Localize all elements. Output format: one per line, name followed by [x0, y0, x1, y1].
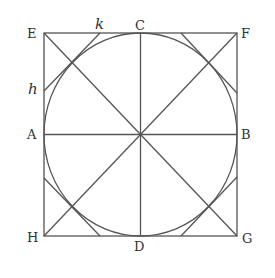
label-B: B	[241, 128, 251, 141]
geometry-diagram: E F H G A B C D h k	[0, 0, 275, 278]
label-H: H	[27, 231, 38, 244]
label-C: C	[135, 19, 145, 32]
label-D: D	[134, 240, 144, 253]
label-h: h	[28, 82, 38, 97]
label-G: G	[242, 232, 252, 245]
label-A: A	[27, 128, 36, 141]
label-F: F	[241, 27, 250, 40]
label-k: k	[95, 17, 104, 32]
diagram-canvas	[0, 0, 275, 278]
label-E: E	[27, 27, 37, 40]
